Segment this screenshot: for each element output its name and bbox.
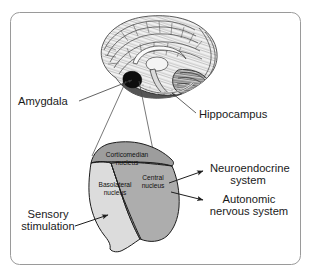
label-basolateral-line1: Basolateral bbox=[99, 181, 133, 188]
amygdala-figure: Amygdala Hippocampus Corticomedian nucle… bbox=[0, 0, 311, 277]
thalamus bbox=[146, 57, 168, 71]
label-neuroendocrine-line1: Neuroendocrine bbox=[210, 162, 290, 174]
label-corticomedian-line1: Corticomedian bbox=[106, 151, 149, 158]
label-central-line1: Central bbox=[142, 174, 164, 181]
label-central-line2: nucleus bbox=[142, 182, 165, 189]
label-autonomic-line2: nervous system bbox=[210, 205, 288, 217]
label-sensory-stimulation-line1: Sensory bbox=[27, 208, 68, 220]
figure-root: Amygdala Hippocampus Corticomedian nucle… bbox=[0, 0, 311, 277]
label-hippocampus: Hippocampus bbox=[199, 108, 268, 120]
label-neuroendocrine-line2: system bbox=[230, 174, 265, 186]
label-corticomedian-line2: nucleus bbox=[116, 159, 139, 166]
amygdala-highlight bbox=[123, 71, 142, 88]
label-autonomic-line1: Autonomic bbox=[223, 193, 276, 205]
label-basolateral-line2: nucleus bbox=[104, 189, 127, 196]
label-amygdala: Amygdala bbox=[18, 95, 69, 107]
label-sensory-stimulation-line2: stimulation bbox=[21, 220, 74, 232]
